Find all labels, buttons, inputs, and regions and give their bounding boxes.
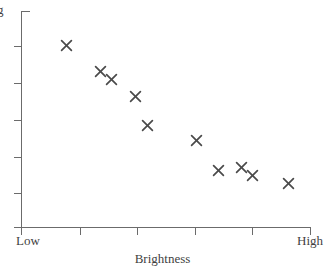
data-point-marker (246, 169, 259, 182)
data-point-marker (105, 73, 118, 86)
data-point-marker (141, 119, 154, 132)
data-point-marker (190, 134, 203, 147)
data-point-marker (129, 90, 142, 103)
scatter-chart: g ll Low High Brightness (0, 0, 325, 273)
data-point-marker (60, 39, 73, 52)
plot-area (0, 0, 325, 273)
data-point-marker (282, 177, 295, 190)
data-point-marker (212, 164, 225, 177)
